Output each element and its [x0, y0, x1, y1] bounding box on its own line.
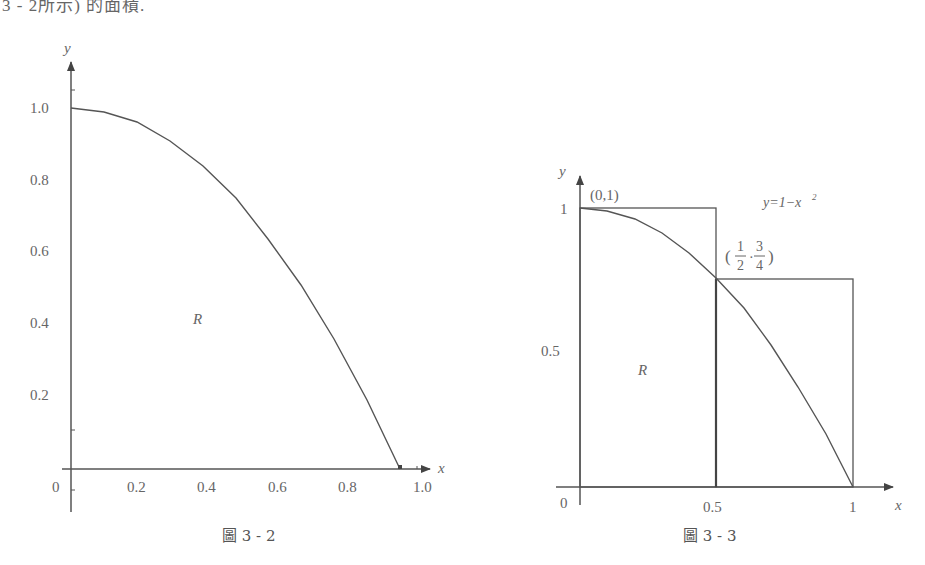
y-axis-label: y: [557, 163, 566, 179]
y-tick-label: 1: [560, 201, 568, 217]
x-tick-label: 0.6: [268, 479, 287, 495]
svg-text:(: (: [725, 247, 731, 266]
figure-3-3: y x 1 0.5 0 0.5 1 (0,1) ( 1 2 · 3 4 ) y=…: [541, 163, 902, 545]
svg-text:4: 4: [756, 258, 763, 273]
x-tick-label: 0.4: [197, 479, 216, 495]
upper-rectangle-right: [716, 279, 853, 487]
figure-3-2: y x 1.0 0.8 0.6 0.4 0.2 0 0.2 0.4 0.6 0.…: [30, 40, 445, 545]
y-tick-label: 0.2: [30, 387, 49, 403]
upper-rectangle-left: [580, 208, 716, 487]
svg-text:1: 1: [737, 239, 744, 254]
region-label: R: [637, 362, 647, 378]
y-tick-label: 0.4: [30, 315, 49, 331]
origin-label: 0: [52, 479, 60, 495]
svg-text:2: 2: [737, 258, 744, 273]
x-tick-label: 0.2: [127, 479, 146, 495]
figures-canvas: y x 1.0 0.8 0.6 0.4 0.2 0 0.2 0.4 0.6 0.…: [0, 0, 925, 565]
svg-text:2: 2: [812, 192, 817, 202]
curve-equation-label: y=1−x 2: [761, 192, 817, 210]
point-label-0-1: (0,1): [590, 187, 619, 204]
x-tick-label: 0.5: [703, 499, 722, 515]
x-tick-label: 1.0: [413, 479, 432, 495]
region-label: R: [192, 311, 202, 327]
y-axis-label: y: [62, 40, 71, 56]
x-tick-label: 1: [849, 499, 857, 515]
x-axis-label: x: [437, 460, 445, 476]
curve-y-1-minus-x-squared: [71, 108, 400, 469]
x-axis-label: x: [894, 497, 902, 513]
svg-text:y=1−x: y=1−x: [761, 195, 802, 210]
y-tick-label: 0.8: [30, 172, 49, 188]
figure-caption: 圖 3 - 3: [683, 527, 736, 545]
y-tick-label: 1.0: [30, 100, 49, 116]
svg-text:·: ·: [749, 250, 754, 265]
point-label-half-threequarters: ( 1 2 · 3 4 ): [725, 239, 774, 273]
figure-caption: 圖 3 - 2: [222, 527, 275, 545]
svg-text:): ): [768, 247, 774, 266]
y-tick-label: 0.5: [541, 343, 560, 359]
x-tick-label: 0.8: [338, 479, 357, 495]
origin-label: 0: [560, 495, 568, 511]
svg-text:3: 3: [756, 239, 763, 254]
y-tick-label: 0.6: [30, 243, 49, 259]
